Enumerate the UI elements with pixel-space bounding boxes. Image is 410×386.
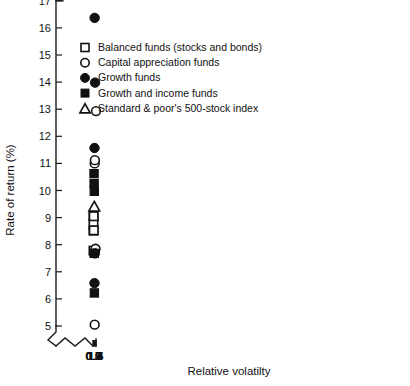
marker-filled-square — [90, 169, 98, 177]
legend-entry: Balanced funds (stocks and bonds) — [81, 41, 262, 53]
y-tick-label: 6 — [45, 293, 51, 305]
y-axis-title: Rate of return (%) — [4, 144, 16, 236]
x-tick-label: 1.5 — [88, 350, 103, 362]
y-tick-label: 8 — [45, 239, 51, 251]
y-tick-label: 13 — [39, 103, 51, 115]
marker-open-square — [81, 44, 89, 52]
y-tick-label: 14 — [39, 76, 51, 88]
marker-filled-circle — [81, 73, 90, 82]
x-axis-title: Relative volatilty — [187, 365, 270, 377]
marker-open-circle — [90, 156, 99, 165]
plot-canvas: 567891011121314151617 0.60.70.80.91.01.1… — [0, 0, 410, 386]
y-tick-label: 16 — [39, 22, 51, 34]
axis-break-zigzag — [48, 326, 93, 346]
x-axis: 0.60.70.80.91.01.11.21.31.41.5 — [85, 339, 103, 362]
y-tick-label: 12 — [39, 130, 51, 142]
marker-filled-circle — [90, 143, 99, 152]
marker-open-triangle — [89, 201, 100, 211]
scatter-plot-figure: 567891011121314151617 0.60.70.80.91.01.1… — [0, 0, 410, 386]
y-tick-label: 9 — [45, 212, 51, 224]
legend-label: Standard & poor's 500-stock index — [98, 102, 259, 114]
legend-entry: Standard & poor's 500-stock index — [80, 102, 259, 114]
marker-open-square — [90, 212, 98, 220]
legend-entry: Capital appreciation funds — [81, 56, 220, 68]
legend-label: Growth funds — [98, 71, 160, 83]
marker-open-triangle — [80, 104, 90, 113]
marker-filled-circle — [90, 13, 99, 22]
legend-entry: Growth and income funds — [81, 87, 218, 99]
marker-filled-square — [90, 289, 98, 297]
y-axis: 567891011121314151617 — [39, 0, 63, 332]
legend-label: Capital appreciation funds — [98, 56, 219, 68]
marker-open-circle — [90, 320, 99, 329]
chart-legend: Balanced funds (stocks and bonds)Capital… — [80, 41, 262, 114]
marker-filled-square — [90, 249, 98, 257]
marker-open-circle — [81, 59, 89, 67]
marker-filled-circle — [90, 278, 99, 287]
legend-label: Growth and income funds — [98, 87, 218, 99]
marker-filled-square — [81, 89, 89, 97]
y-tick-label: 11 — [40, 157, 51, 169]
y-tick-label: 15 — [39, 49, 51, 61]
series-open-triangle — [89, 201, 100, 211]
marker-filled-square — [90, 187, 98, 195]
y-tick-label: 7 — [45, 266, 51, 278]
y-tick-label: 17 — [39, 0, 51, 7]
y-tick-label: 5 — [45, 320, 51, 332]
y-tick-label: 10 — [39, 185, 51, 197]
legend-label: Balanced funds (stocks and bonds) — [98, 41, 262, 53]
marker-open-square — [90, 226, 98, 234]
